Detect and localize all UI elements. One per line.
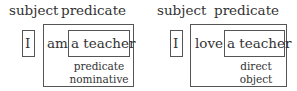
predicate-label: predicate bbox=[61, 4, 126, 18]
verb-word: am bbox=[47, 37, 68, 51]
role-line-1: direct bbox=[228, 60, 284, 73]
subject-label: subject bbox=[9, 4, 58, 18]
complement-role: predicate nominative bbox=[66, 60, 132, 86]
complement-role: direct object bbox=[228, 60, 284, 86]
complement-word: a teacher bbox=[71, 37, 136, 51]
subject-word: I bbox=[173, 37, 178, 51]
role-line-1: predicate bbox=[66, 60, 132, 73]
verb-word: love bbox=[195, 37, 223, 51]
role-line-2: nominative bbox=[66, 73, 132, 86]
subject-word: I bbox=[25, 37, 30, 51]
predicate-label: predicate bbox=[214, 4, 279, 18]
subject-label: subject bbox=[157, 4, 206, 18]
complement-word: a teacher bbox=[227, 37, 292, 51]
role-line-2: object bbox=[228, 73, 284, 86]
